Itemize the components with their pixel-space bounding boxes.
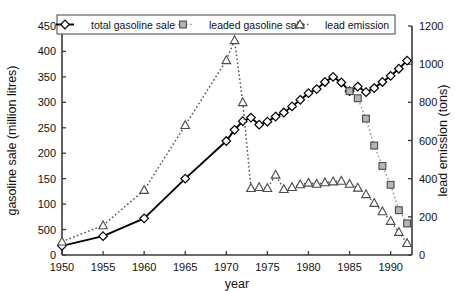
data-point-square: [354, 95, 361, 102]
legend: total gasoline saleleaded gasoline salel…: [56, 15, 395, 34]
dual-axis-line-chart: 0500100150200250300350400450020040060080…: [0, 0, 455, 291]
x-tick-label: 1970: [214, 261, 238, 273]
data-point-square: [379, 163, 386, 170]
data-point-square: [346, 88, 353, 95]
y-tick-label-right: 800: [419, 96, 437, 108]
y-tick-label-right: 1200: [419, 20, 443, 32]
legend-label: leaded gasoline sale: [209, 19, 305, 31]
x-tick-label: 1980: [296, 261, 320, 273]
data-point-square: [363, 115, 370, 122]
y-tick-label-left: 250: [38, 122, 56, 134]
y-tick-label-left: 150: [38, 173, 56, 185]
x-tick-label: 1960: [132, 261, 156, 273]
y-tick-label-right: 1000: [419, 58, 443, 70]
data-point-triangle: [280, 185, 289, 193]
legend-label: total gasoline sale: [91, 19, 175, 31]
series-total-gasoline-sale: [58, 56, 412, 250]
series-line: [350, 91, 408, 223]
x-tick-label: 1985: [337, 261, 361, 273]
data-point-triangle: [370, 199, 379, 207]
data-point-triangle: [288, 183, 297, 191]
y-tick-label-left: 450: [38, 20, 56, 32]
data-point-triangle: [304, 178, 313, 186]
data-point-square: [371, 142, 378, 149]
data-point-square: [387, 181, 394, 188]
legend-label: lead emission: [325, 19, 389, 31]
y-axis-title-left: gasoline sale (million litres): [5, 65, 19, 215]
y-tick-label-left: 350: [38, 71, 56, 83]
chart-container: 0500100150200250300350400450020040060080…: [0, 0, 455, 291]
x-tick-label: 1950: [50, 261, 74, 273]
x-tick-label: 1975: [255, 261, 279, 273]
y-tick-label-right: 600: [419, 135, 437, 147]
data-point-diamond: [263, 117, 272, 126]
data-point-triangle: [181, 121, 190, 129]
y-tick-label-left: 400: [38, 45, 56, 57]
data-point-triangle: [140, 186, 149, 194]
y-tick-label-left: 500: [38, 224, 56, 236]
y-tick-label-right: 400: [419, 173, 437, 185]
y-tick-label-left: 100: [38, 198, 56, 210]
data-point-triangle: [238, 98, 247, 106]
data-point-diamond: [271, 112, 280, 121]
y-tick-label-left: 0: [50, 249, 56, 261]
data-point-triangle: [312, 180, 321, 188]
data-point-triangle: [395, 228, 404, 236]
data-point-triangle: [386, 217, 395, 225]
x-tick-label: 1990: [378, 261, 402, 273]
data-point-triangle: [230, 36, 239, 44]
x-axis-ticks: 195019551960196519701975198019851990: [50, 251, 403, 273]
data-point-square: [404, 220, 411, 227]
y-tick-label-right: 200: [419, 211, 437, 223]
data-point-triangle: [263, 184, 272, 192]
data-point-triangle: [362, 190, 371, 198]
data-point-square: [395, 207, 402, 214]
series-line: [62, 40, 407, 243]
data-point-triangle: [271, 170, 280, 178]
axes-group: [62, 26, 412, 255]
y-tick-label-right: 0: [419, 249, 425, 261]
data-point-triangle: [337, 176, 346, 184]
x-tick-label: 1955: [91, 261, 115, 273]
data-point-triangle: [255, 183, 264, 191]
y-tick-label-left: 300: [38, 96, 56, 108]
data-point-square: [180, 21, 187, 28]
data-point-triangle: [296, 180, 305, 188]
data-point-triangle: [222, 56, 231, 64]
y-axis-title-right: lead emission (tons): [436, 85, 450, 197]
data-point-diamond: [99, 232, 108, 241]
y-tick-label-left: 200: [38, 147, 56, 159]
data-point-triangle: [345, 180, 354, 188]
data-point-triangle: [58, 237, 67, 245]
series-lead-emission: [58, 36, 412, 247]
x-axis-title: year: [225, 277, 249, 291]
x-tick-label: 1965: [173, 261, 197, 273]
